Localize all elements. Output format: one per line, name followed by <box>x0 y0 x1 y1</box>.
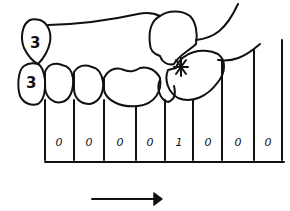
lower-tooth-2 <box>45 64 73 103</box>
grid-cell-value: 0 <box>235 136 242 149</box>
upper-tooth-label: 3 <box>30 34 40 52</box>
upper-molar <box>149 12 196 65</box>
grid-cell-value: 1 <box>176 136 183 149</box>
grid-cell-value: 0 <box>56 136 63 149</box>
lower-tooth-1 <box>74 66 103 104</box>
upper-jaw-outline <box>48 13 160 25</box>
grid-cell-value: 0 <box>205 136 212 149</box>
lower-tooth-label: 3 <box>26 74 36 92</box>
dental-diagram: 3 3 0 0 0 0 1 0 0 0 <box>0 0 290 211</box>
upper-jaw-curve <box>196 4 238 40</box>
lower-molar <box>104 67 160 106</box>
grid-cell-value: 0 <box>117 136 124 149</box>
grid-cell-value: 0 <box>86 136 93 149</box>
contact-marker-icon <box>174 58 188 76</box>
grid-cell-value: 0 <box>265 136 272 149</box>
direction-arrow-icon <box>92 193 162 205</box>
grid-cell-value: 0 <box>147 136 154 149</box>
